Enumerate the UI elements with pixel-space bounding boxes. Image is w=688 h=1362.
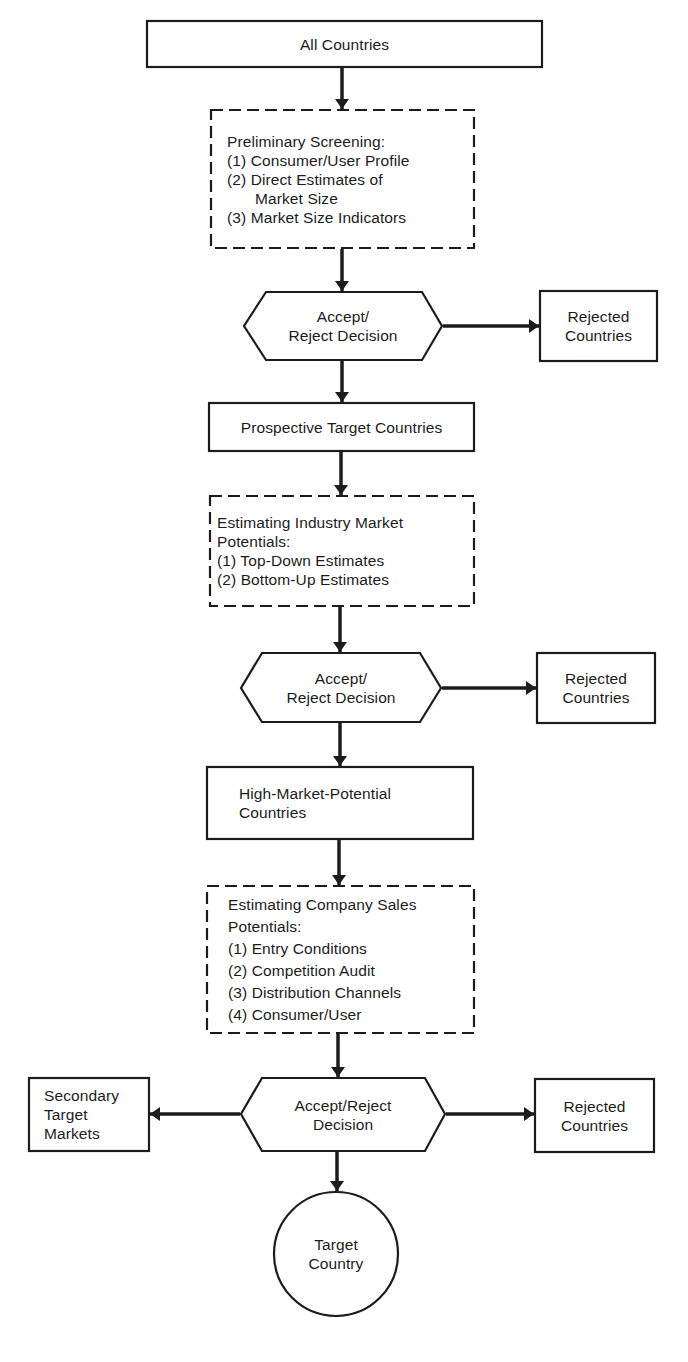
node-label: Secondary [44,1086,119,1105]
node-label: (4) Consumer/User [228,1004,361,1026]
node-label: Estimating Industry Market [217,513,403,532]
node-label: Reject Decision [288,326,397,345]
node-label: Accept/ [317,307,369,326]
all-countries-node: All Countries [147,21,542,68]
node-label: Country [309,1254,364,1273]
node-label: Markets [44,1124,100,1143]
node-label: Potentials: [217,532,290,551]
preliminary-screening-node: Preliminary Screening: (1) Consumer/User… [227,110,472,248]
node-label: Target [314,1235,358,1254]
node-label: Preliminary Screening: [227,132,385,151]
high-potential-node: High-Market-Potential Countries [239,767,471,839]
node-label: Rejected [568,307,630,326]
node-label: Estimating Company Sales [228,894,416,916]
node-label: Countries [562,688,629,707]
node-label: (1) Entry Conditions [228,938,367,960]
node-label: Target [44,1105,88,1124]
node-label: Rejected [564,1097,626,1116]
node-label: (2) Competition Audit [228,960,375,982]
decision-2-node: Accept/ Reject Decision [241,653,441,722]
node-label: (3) Distribution Channels [228,982,401,1004]
rejected-3-node: Rejected Countries [535,1079,654,1152]
node-label: Potentials: [228,916,301,938]
node-label: Decision [313,1115,373,1134]
node-label: Market Size [227,189,338,208]
node-label: (1) Top-Down Estimates [217,551,384,570]
decision-1-node: Accept/ Reject Decision [244,292,442,360]
node-label: (2) Bottom-Up Estimates [217,570,389,589]
company-sales-node: Estimating Company Sales Potentials: (1)… [228,886,472,1033]
node-label: (2) Direct Estimates of [227,170,383,189]
industry-potentials-node: Estimating Industry Market Potentials: (… [217,496,472,606]
rejected-1-node: Rejected Countries [540,291,657,361]
node-label: (1) Consumer/User Profile [227,151,410,170]
node-label: Accept/ [315,669,367,688]
secondary-targets-node: Secondary Target Markets [44,1078,148,1151]
rejected-2-node: Rejected Countries [537,653,655,723]
node-label: Countries [239,803,306,822]
node-label: Countries [561,1116,628,1135]
node-label: Accept/Reject [295,1096,392,1115]
target-country-node: Target Country [274,1192,398,1316]
node-label: High-Market-Potential [239,784,391,803]
node-label: (3) Market Size Indicators [227,208,406,227]
decision-3-node: Accept/Reject Decision [241,1078,445,1151]
prospective-targets-node: Prospective Target Countries [209,403,474,451]
node-label: Reject Decision [286,688,395,707]
node-label: Rejected [565,669,627,688]
node-label: Countries [565,326,632,345]
node-label: All Countries [300,35,389,54]
node-label: Prospective Target Countries [241,418,443,437]
